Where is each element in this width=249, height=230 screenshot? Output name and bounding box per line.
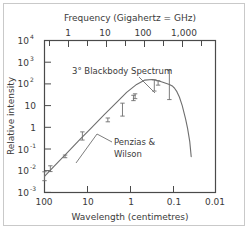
penzias-wilson-annotation: Penzias & Wilson (76, 134, 156, 163)
bottom-tick-label: 10 (82, 197, 94, 207)
y-tick-label: 10 -3 (18, 185, 37, 198)
plot-area-frame (45, 41, 216, 193)
blackbody-annotation: 3° Blackbody Spectrum (72, 66, 172, 93)
data-point-errorbar (106, 118, 110, 122)
y-axis-title: Relative intensity (6, 76, 16, 155)
y-tick-label: 1 (30, 123, 36, 133)
svg-text:10: 10 (18, 58, 30, 68)
top-tick-label: 100 (134, 28, 151, 38)
svg-text:10: 10 (25, 101, 37, 111)
top-axis-ticks (50, 41, 202, 47)
bottom-tick-label: 0.1 (167, 197, 181, 207)
svg-text:3: 3 (30, 55, 34, 62)
bottom-tick-label: 0.01 (205, 197, 225, 207)
svg-text:10: 10 (18, 166, 30, 176)
figure-container: Frequency (Gigahertz = GHz) 1 10 100 1,0… (0, 0, 249, 230)
data-point-errorbar (152, 80, 156, 91)
bottom-axis-ticks (45, 186, 216, 192)
bottom-axis-title: Wavelength (centimetres) (71, 212, 188, 222)
y-tick-label: 10 4 (18, 33, 34, 46)
svg-text:-1: -1 (30, 142, 36, 149)
bottom-axis-tick-labels: 100 10 1 0.1 0.01 (35, 197, 225, 207)
y-tick-label: 10 2 (18, 76, 34, 89)
top-tick-label: 1,000 (171, 28, 197, 38)
svg-text:10: 10 (18, 188, 30, 198)
penzias-wilson-annotation-line2: Wilson (114, 149, 142, 159)
y-tick-label: 10 (25, 101, 37, 111)
svg-text:-2: -2 (30, 163, 36, 170)
y-tick-label: 10 3 (18, 55, 34, 68)
svg-text:10: 10 (18, 145, 30, 155)
bottom-tick-label: 1 (128, 197, 134, 207)
svg-text:10: 10 (18, 79, 30, 89)
blackbody-spectrum-chart: Frequency (Gigahertz = GHz) 1 10 100 1,0… (0, 0, 249, 230)
data-point-errorbar (120, 103, 124, 116)
y-axis-tick-labels: 10 4 10 3 10 2 10 1 10 -1 10 (18, 33, 37, 198)
blackbody-annotation-text: 3° Blackbody Spectrum (72, 66, 172, 76)
top-axis-tick-labels: 1 10 100 1,000 (65, 28, 197, 38)
svg-text:10: 10 (18, 36, 30, 46)
data-layer (42, 70, 191, 181)
top-tick-label: 1 (65, 28, 71, 38)
top-tick-label: 10 (99, 28, 111, 38)
y-tick-label: 10 -1 (18, 142, 37, 155)
top-axis-title: Frequency (Gigahertz = GHz) (64, 13, 196, 23)
y-tick-label: 10 -2 (18, 163, 37, 176)
svg-text:2: 2 (30, 76, 34, 83)
svg-text:-3: -3 (30, 185, 36, 192)
bottom-tick-label: 100 (35, 197, 52, 207)
penzias-wilson-annotation-line1: Penzias & (114, 137, 156, 147)
svg-text:4: 4 (30, 33, 34, 40)
data-point-errorbar (42, 172, 46, 181)
svg-text:1: 1 (30, 123, 36, 133)
